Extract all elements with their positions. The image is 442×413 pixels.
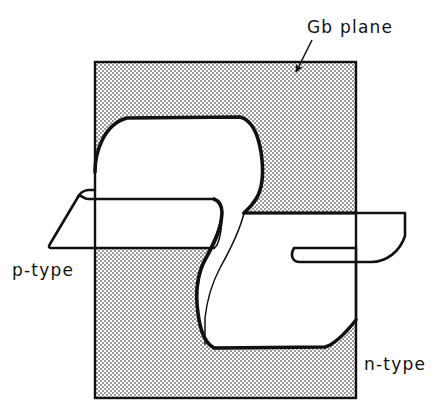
n-type-label: n-type xyxy=(364,354,426,374)
gb-plane-label: Gb plane xyxy=(307,17,393,37)
gb-plane-diagram: Gb plane p-type n-type xyxy=(0,0,442,413)
figure-container: Gb plane p-type n-type xyxy=(0,0,442,413)
p-type-label: p-type xyxy=(12,260,74,280)
